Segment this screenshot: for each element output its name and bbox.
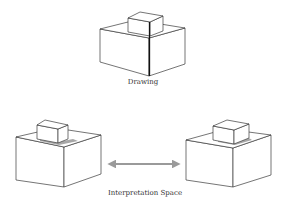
interpretation-space-caption: Interpretation Space (108, 189, 182, 197)
left-interpretation-figure (16, 120, 101, 187)
right-interpretation-figure (186, 120, 271, 187)
drawing-caption: Drawing (128, 78, 158, 86)
drawing-figure (100, 12, 185, 76)
diagram-canvas (0, 0, 284, 210)
